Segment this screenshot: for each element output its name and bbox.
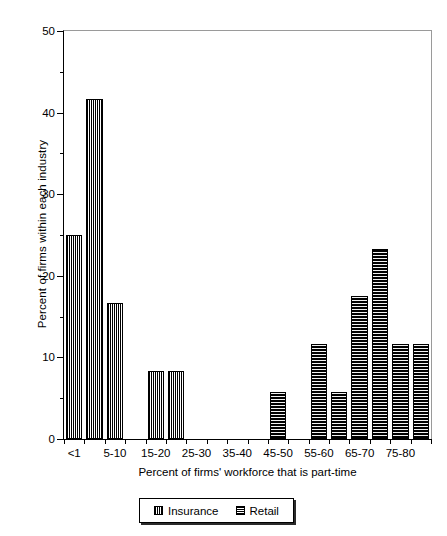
y-tick-mark <box>57 194 64 195</box>
plot-area: 01020304050 <15-1015-2025-3035-4045-5055… <box>63 30 432 440</box>
y-tick-label: 40 <box>42 107 55 119</box>
bar-retail-75-80 <box>392 344 408 439</box>
bar-insurance-<1 <box>66 235 82 439</box>
chart-figure: Percent of firms within each industry 01… <box>0 0 447 536</box>
x-axis-title: Percent of firms' workforce that is part… <box>63 466 432 478</box>
legend-label-insurance: Insurance <box>168 505 219 517</box>
legend-item-insurance: Insurance <box>154 505 219 517</box>
y-tick-label: 50 <box>42 25 55 37</box>
x-tick-mark <box>411 439 412 444</box>
bar-insurance-15-20 <box>148 371 164 439</box>
x-tick-mark <box>84 439 85 444</box>
x-tick-mark <box>288 439 289 444</box>
bar-retail-55-60 <box>311 344 327 439</box>
x-tick-label-<1: <1 <box>68 447 81 459</box>
x-tick-mark <box>146 439 147 444</box>
x-tick-mark <box>268 439 269 444</box>
y-tick-label: 20 <box>42 270 55 282</box>
y-tick-label: 10 <box>42 351 55 363</box>
legend-item-retail: Retail <box>236 505 279 517</box>
bar-retail-70-75 <box>372 249 388 439</box>
x-tick-mark <box>248 439 249 444</box>
chart-legend: Insurance Retail <box>139 498 294 523</box>
x-tick-label-5-10: 5-10 <box>103 447 126 459</box>
x-tick-label-15-20: 15-20 <box>141 447 170 459</box>
legend-swatch-retail-icon <box>236 506 245 515</box>
y-tick-mark <box>57 439 64 440</box>
x-tick-label-55-60: 55-60 <box>304 447 333 459</box>
legend-swatch-insurance-icon <box>154 506 163 515</box>
x-tick-mark <box>309 439 310 444</box>
x-tick-mark <box>125 439 126 444</box>
x-tick-label-25-30: 25-30 <box>182 447 211 459</box>
y-tick-mark <box>57 276 64 277</box>
y-tick-mark <box>57 357 64 358</box>
bar-retail-80-85 <box>413 344 429 439</box>
x-tick-mark <box>329 439 330 444</box>
x-tick-label-35-40: 35-40 <box>223 447 252 459</box>
legend-label-retail: Retail <box>250 505 279 517</box>
x-tick-mark <box>431 439 432 444</box>
x-tick-mark <box>390 439 391 444</box>
bar-series-container <box>64 31 431 439</box>
y-tick-label: 30 <box>42 188 55 200</box>
x-tick-mark <box>370 439 371 444</box>
x-tick-mark <box>105 439 106 444</box>
y-tick-mark <box>57 113 64 114</box>
x-tick-mark <box>207 439 208 444</box>
bar-retail-45-50 <box>270 392 286 439</box>
y-axis-title: Percent of firms within each industry <box>36 104 48 364</box>
x-tick-mark <box>227 439 228 444</box>
bar-retail-65-70 <box>351 296 367 439</box>
x-tick-label-45-50: 45-50 <box>263 447 292 459</box>
bar-insurance-1-5 <box>86 99 102 439</box>
x-tick-label-75-80: 75-80 <box>386 447 415 459</box>
x-tick-mark <box>349 439 350 444</box>
y-tick-mark <box>57 31 64 32</box>
x-tick-mark <box>186 439 187 444</box>
x-tick-mark <box>166 439 167 444</box>
bar-insurance-20-25 <box>168 371 184 439</box>
bar-insurance-5-10 <box>107 303 123 439</box>
y-tick-label: 0 <box>49 433 55 445</box>
x-tick-label-65-70: 65-70 <box>345 447 374 459</box>
x-tick-mark <box>64 439 65 444</box>
bar-retail-60-65 <box>331 392 347 439</box>
